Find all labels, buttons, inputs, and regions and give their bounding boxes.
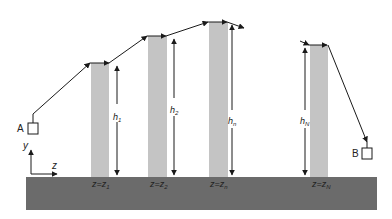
cable-tower-diagram: h1 h2 hn hN z=z1 z=z2 z=zn z=zN A B y z [0, 0, 392, 219]
height-label-2: h2 [170, 105, 179, 116]
endpoint-a-label: A [17, 123, 24, 134]
height-label-n: hn [228, 116, 237, 127]
height-label-1: h1 [113, 112, 121, 123]
endpoint-a-box [28, 123, 38, 134]
tower-1 [91, 63, 109, 177]
endpoint-b-box [362, 148, 372, 159]
height-label-N: hN [300, 116, 310, 127]
tower-n [209, 22, 228, 177]
tower-N [310, 45, 328, 177]
z-axis-label: z [51, 160, 57, 171]
tower-2 [148, 36, 167, 177]
y-axis-label: y [22, 140, 29, 151]
endpoint-b-label: B [352, 148, 359, 159]
